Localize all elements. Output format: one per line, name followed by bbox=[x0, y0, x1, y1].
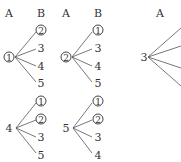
tree-leaf: 1 bbox=[93, 96, 104, 107]
tree-root: 3 bbox=[141, 52, 148, 63]
column-b-header: B bbox=[94, 8, 102, 19]
tree-leaf: 4 bbox=[38, 61, 45, 72]
tree-leaf: 2 bbox=[36, 114, 47, 125]
tree-leaf: 1 bbox=[93, 25, 104, 36]
column-a-header: A bbox=[62, 8, 70, 19]
tree-leaf: 5 bbox=[38, 150, 45, 161]
tree-leaf: 3 bbox=[38, 43, 45, 54]
tree-root: 4 bbox=[6, 123, 13, 134]
tree-root: 5 bbox=[63, 123, 70, 134]
column-a-header: A bbox=[156, 8, 164, 19]
tree-leaf: 3 bbox=[95, 132, 102, 143]
tree-leaf: 2 bbox=[93, 114, 104, 125]
tree-leaf: 5 bbox=[38, 78, 45, 89]
column-a-header: A bbox=[5, 8, 13, 19]
tree-leaf: 1 bbox=[36, 96, 47, 107]
tree-branches bbox=[0, 0, 181, 162]
tree-leaf: 3 bbox=[38, 132, 45, 143]
tree-root: 1 bbox=[4, 52, 15, 63]
tree-leaf: 4 bbox=[95, 61, 102, 72]
tree-leaf: 3 bbox=[95, 43, 102, 54]
column-b-header: B bbox=[37, 8, 45, 19]
tree-leaf: 2 bbox=[36, 25, 47, 36]
tree-root: 2 bbox=[61, 52, 72, 63]
tree-leaf: 5 bbox=[95, 78, 102, 89]
tree-leaf: 4 bbox=[95, 150, 102, 161]
